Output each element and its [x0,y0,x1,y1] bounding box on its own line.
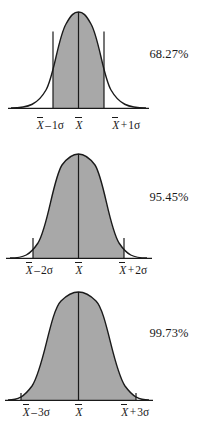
sigma-offset: 3σ [38,406,50,418]
sigma-offset: 1σ [128,119,140,131]
sigma-offset: 2σ [135,264,147,276]
normal-curve-3-sigma [0,290,206,405]
operator-symbol: – [33,264,41,276]
curve-svg-3-sigma [0,290,206,405]
sigma-offset: 2σ [41,264,53,276]
percent-label-1-sigma: 68.27% [136,47,202,62]
operator-symbol: + [129,406,138,418]
mean-symbol: X [112,116,120,134]
operator-symbol: + [120,119,129,131]
normal-distribution-figure: 68.27% X–1σ X X+1σ 95.45% [0,0,206,433]
operator-symbol: – [44,119,52,131]
mean-symbol: X [25,261,33,279]
sigma-offset: 3σ [137,406,149,418]
tick-label-mean-3-sigma: X [64,403,94,421]
tick-label-upper-2-sigma: X+2σ [100,261,166,279]
tick-label-mean-2-sigma: X [64,261,94,279]
tick-label-upper-1-sigma: X+1σ [93,116,159,134]
sigma-offset: 1σ [52,119,64,131]
tick-label-upper-3-sigma: X+3σ [102,403,168,421]
panel-3-sigma: 99.73% X–3σ X X+3σ [0,290,206,433]
tick-label-lower-3-sigma: X–3σ [3,403,69,421]
mean-symbol: X [22,403,30,421]
mean-symbol: X [36,116,44,134]
operator-symbol: – [30,406,38,418]
tick-label-lower-2-sigma: X–2σ [6,261,72,279]
panel-2-sigma: 95.45% X–2σ X X+2σ [0,145,206,290]
mean-symbol: X [75,403,83,421]
mean-symbol: X [75,261,83,279]
mean-symbol: X [121,403,129,421]
mean-symbol: X [119,261,127,279]
tick-row-3-sigma: X–3σ X X+3σ [0,403,150,423]
percent-label-2-sigma: 95.45% [136,190,202,205]
percent-label-3-sigma: 99.73% [136,326,202,341]
mean-symbol: X [75,116,83,134]
tick-row-1-sigma: X–1σ X X+1σ [0,116,150,136]
panel-1-sigma: 68.27% X–1σ X X+1σ [0,0,206,145]
tick-row-2-sigma: X–2σ X X+2σ [0,261,150,281]
operator-symbol: + [127,264,136,276]
tick-label-mean-1-sigma: X [64,116,94,134]
